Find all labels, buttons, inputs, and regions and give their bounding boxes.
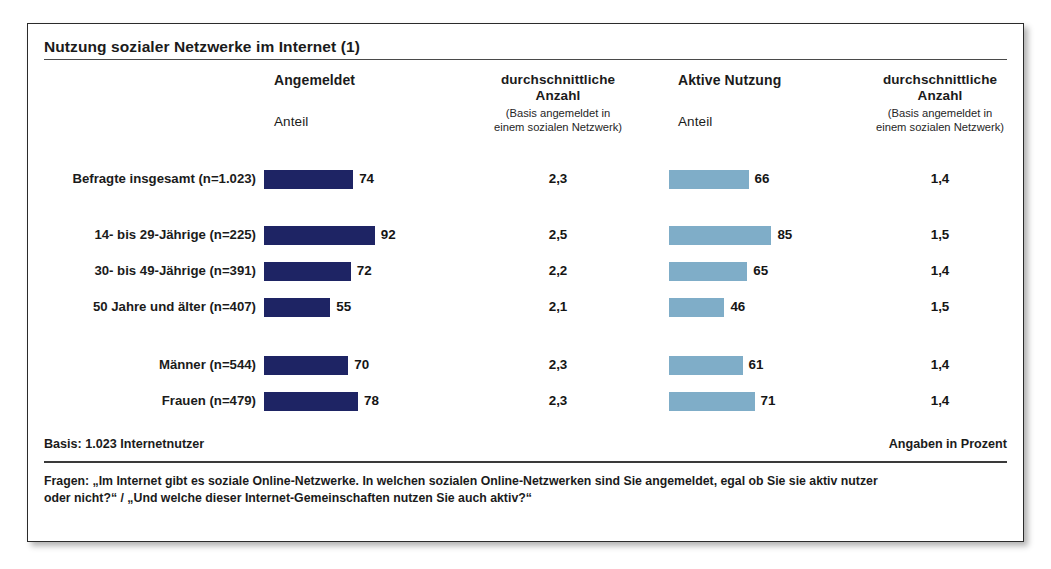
bar-angemeldet	[264, 392, 358, 411]
table-row: 14- bis 29-Jährige (n=225)922,5851,5	[28, 220, 1023, 250]
angaben-label: Angaben in Prozent	[889, 437, 1007, 451]
value-durchschnittliche-anzahl-2: 1,4	[840, 386, 1040, 416]
value-durchschnittliche-anzahl-1: 2,2	[458, 256, 658, 286]
table-row: 30- bis 49-Jährige (n=391)722,2651,4	[28, 256, 1023, 286]
row-label: Männer (n=544)	[28, 350, 256, 380]
header-durchschnittliche-anzahl-2b: Anzahl	[840, 88, 1040, 103]
bar-value-aktive-nutzung: 65	[753, 256, 768, 286]
bar-value-angemeldet: 70	[354, 350, 369, 380]
row-label: 14- bis 29-Jährige (n=225)	[28, 220, 256, 250]
header-aktive-nutzung-anteil: Anteil	[678, 114, 712, 129]
value-durchschnittliche-anzahl-2: 1,4	[840, 164, 1040, 194]
header-durchschnittliche-anzahl-2a: durchschnittliche	[840, 72, 1040, 87]
bar-aktive-nutzung	[669, 356, 743, 375]
footer-rule	[44, 461, 1007, 463]
value-durchschnittliche-anzahl-2: 1,4	[840, 256, 1040, 286]
question-line-1: Fragen: „Im Internet gibt es soziale Onl…	[44, 473, 1007, 490]
title-block: Nutzung sozialer Netzwerke im Internet (…	[44, 38, 1007, 60]
value-durchschnittliche-anzahl-1: 2,3	[458, 350, 658, 380]
chart-inner: Nutzung sozialer Netzwerke im Internet (…	[28, 24, 1023, 541]
value-durchschnittliche-anzahl-2: 1,5	[840, 292, 1040, 322]
chart-page: Nutzung sozialer Netzwerke im Internet (…	[0, 0, 1051, 569]
bar-aktive-nutzung	[669, 262, 747, 281]
bar-value-angemeldet: 72	[357, 256, 372, 286]
bar-value-angemeldet: 78	[364, 386, 379, 416]
table-row: Männer (n=544)702,3611,4	[28, 350, 1023, 380]
bar-value-angemeldet: 92	[381, 220, 396, 250]
row-label: Frauen (n=479)	[28, 386, 256, 416]
basis-label: Basis: 1.023 Internetnutzer	[44, 437, 204, 451]
value-durchschnittliche-anzahl-1: 2,1	[458, 292, 658, 322]
bar-aktive-nutzung	[669, 298, 724, 317]
row-label: 30- bis 49-Jährige (n=391)	[28, 256, 256, 286]
header-aktive-nutzung: Aktive Nutzung	[678, 72, 781, 88]
row-label: 50 Jahre und älter (n=407)	[28, 292, 256, 322]
table-row: Befragte insgesamt (n=1.023)742,3661,4	[28, 164, 1023, 194]
bar-value-aktive-nutzung: 85	[777, 220, 792, 250]
value-durchschnittliche-anzahl-1: 2,5	[458, 220, 658, 250]
bar-value-angemeldet: 74	[359, 164, 374, 194]
value-durchschnittliche-anzahl-2: 1,4	[840, 350, 1040, 380]
bar-value-aktive-nutzung: 71	[761, 386, 776, 416]
table-row: 50 Jahre und älter (n=407)552,1461,5	[28, 292, 1023, 322]
bar-angemeldet	[264, 356, 348, 375]
value-durchschnittliche-anzahl-1: 2,3	[458, 386, 658, 416]
chart-frame: Nutzung sozialer Netzwerke im Internet (…	[27, 23, 1024, 542]
page-title: Nutzung sozialer Netzwerke im Internet (…	[44, 38, 1007, 56]
bar-value-aktive-nutzung: 66	[755, 164, 770, 194]
row-label: Befragte insgesamt (n=1.023)	[28, 164, 256, 194]
header-basis-note-1a: (Basis angemeldet in	[458, 106, 658, 120]
bar-value-aktive-nutzung: 46	[730, 292, 745, 322]
header-angemeldet-anteil: Anteil	[274, 114, 308, 129]
bar-aktive-nutzung	[669, 226, 771, 245]
title-rule	[44, 59, 1007, 60]
header-durchschnittliche-anzahl-1b: Anzahl	[458, 88, 658, 103]
bar-aktive-nutzung	[669, 392, 755, 411]
footer-note: Basis: 1.023 Internetnutzer Angaben in P…	[44, 437, 1007, 459]
bar-value-aktive-nutzung: 61	[749, 350, 764, 380]
table-row: Frauen (n=479)782,3711,4	[28, 386, 1023, 416]
question-line-2: oder nicht?“ / „Und welche dieser Intern…	[44, 490, 1007, 507]
bar-angemeldet	[264, 170, 353, 189]
bar-value-angemeldet: 55	[336, 292, 351, 322]
questions-block: Fragen: „Im Internet gibt es soziale Onl…	[44, 473, 1007, 506]
bar-aktive-nutzung	[669, 170, 749, 189]
bar-angemeldet	[264, 226, 375, 245]
header-durchschnittliche-anzahl-1a: durchschnittliche	[458, 72, 658, 87]
header-basis-note-2a: (Basis angemeldet in	[840, 106, 1040, 120]
value-durchschnittliche-anzahl-1: 2,3	[458, 164, 658, 194]
column-headers: Angemeldet Anteil durchschnittliche Anza…	[28, 72, 1023, 162]
value-durchschnittliche-anzahl-2: 1,5	[840, 220, 1040, 250]
header-angemeldet: Angemeldet	[274, 72, 355, 88]
bar-angemeldet	[264, 262, 351, 281]
bar-angemeldet	[264, 298, 330, 317]
header-basis-note-1b: einem sozialen Netzwerk)	[458, 120, 658, 134]
header-basis-note-2b: einem sozialen Netzwerk)	[840, 120, 1040, 134]
